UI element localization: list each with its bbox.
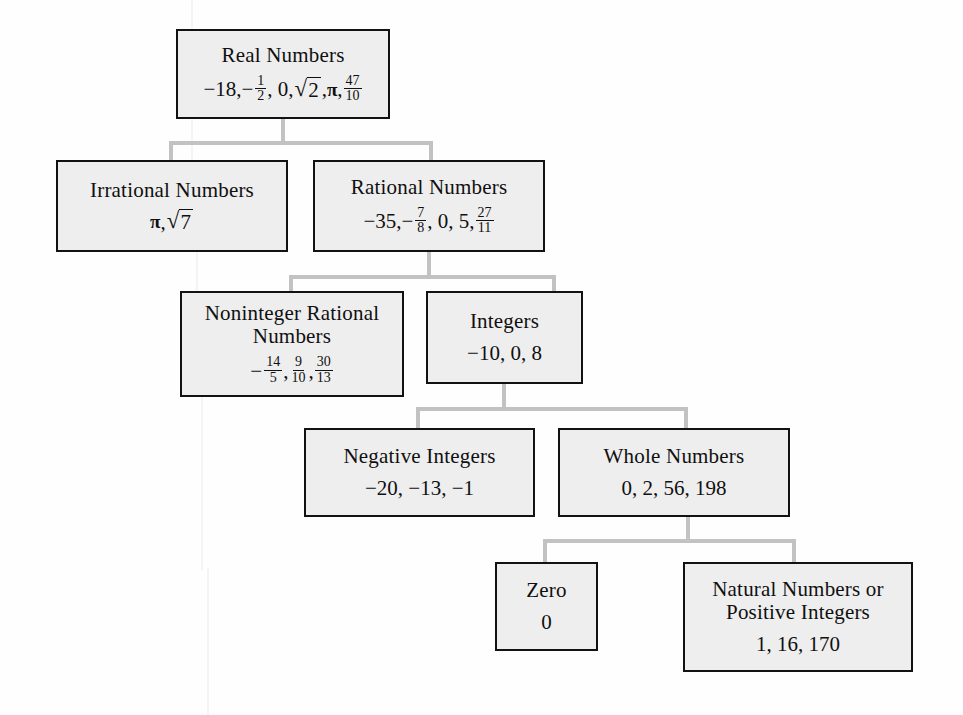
node-integers[interactable]: Integers −10, 0, 8 [426, 291, 583, 384]
node-title: Negative Integers [343, 444, 495, 469]
pi-symbol: π [150, 211, 160, 233]
connector-integers-drop [502, 383, 506, 411]
connector-natural-riser [792, 539, 796, 562]
fraction-numerator: 1 [255, 74, 266, 90]
radical-surd: √ [295, 77, 308, 100]
scan-artifact-streak [207, 568, 209, 715]
fraction-forty-seven-tenths: 47 10 [344, 74, 362, 104]
node-rational-numbers[interactable]: Rational Numbers −35, − 7 8 , 0, 5, 27 1… [313, 160, 545, 252]
real-example-b: , 0, [267, 77, 293, 102]
node-title: Irrational Numbers [90, 178, 254, 203]
node-examples: −18, − 1 2 , 0, √ 2 , π , 47 10 [203, 75, 362, 105]
fraction-numerator: 30 [315, 355, 333, 371]
node-zero[interactable]: Zero 0 [495, 562, 598, 651]
node-title-line2: Numbers [253, 324, 331, 348]
fraction-fourteen-fifths: 14 5 [264, 355, 282, 385]
rational-example-a: −35, [363, 209, 401, 234]
connector-real-bus [169, 141, 433, 145]
fraction-denominator: 11 [476, 221, 493, 236]
connector-whole-drop [686, 516, 690, 543]
node-negative-integers[interactable]: Negative Integers −20, −13, −1 [304, 428, 535, 517]
node-natural-numbers[interactable]: Natural Numbers or Positive Integers 1, … [683, 562, 913, 672]
fraction-numerator: 27 [476, 206, 494, 222]
real-example-d: , [337, 77, 342, 102]
node-title: Rational Numbers [351, 175, 508, 200]
connector-rational-bus [289, 275, 556, 279]
number-system-diagram: Real Numbers −18, − 1 2 , 0, √ 2 , π , 4… [0, 0, 963, 715]
fraction-numerator: 9 [293, 355, 304, 371]
fraction-denominator: 5 [268, 371, 279, 386]
node-title: Noninteger Rational Numbers [205, 302, 380, 349]
fraction-twenty-seven-elevenths: 27 11 [476, 206, 494, 236]
connector-whole-bus [543, 539, 796, 543]
fraction-one-half: 1 2 [255, 74, 266, 104]
node-title-line1: Noninteger Rational [205, 301, 380, 325]
node-examples: −35, − 7 8 , 0, 5, 27 11 [363, 207, 494, 237]
fraction-denominator: 2 [255, 89, 266, 104]
square-root-icon: √ 2 [295, 78, 321, 102]
fraction-numerator: 14 [264, 355, 282, 371]
node-title-line1: Natural Numbers or [712, 577, 884, 601]
rational-example-b: , 0, 5, [427, 209, 474, 234]
radical-surd: √ [167, 209, 180, 232]
fraction-denominator: 10 [344, 89, 362, 104]
node-noninteger-rational-numbers[interactable]: Noninteger Rational Numbers − 14 5 , 9 1… [180, 291, 404, 397]
fraction-denominator: 10 [289, 371, 307, 386]
fraction-numerator: 7 [415, 206, 426, 222]
pi-symbol: π [327, 79, 337, 101]
node-examples: 1, 16, 170 [756, 632, 840, 657]
node-title: Whole Numbers [604, 444, 745, 469]
node-whole-numbers[interactable]: Whole Numbers 0, 2, 56, 198 [558, 428, 790, 517]
connector-integers-bus [416, 407, 688, 411]
noninteger-separator-1: , [283, 359, 288, 384]
fraction-thirty-thirteenths: 30 13 [315, 355, 333, 385]
node-examples: 0 [541, 610, 552, 635]
fraction-nine-tenths: 9 10 [289, 355, 307, 385]
node-examples: π , √ 7 [150, 210, 194, 235]
real-neg-sign: − [241, 77, 253, 102]
noninteger-separator-2: , [308, 359, 313, 384]
node-real-numbers[interactable]: Real Numbers −18, − 1 2 , 0, √ 2 , π , 4… [176, 29, 390, 119]
connector-whole-riser [684, 407, 688, 428]
node-title-line2: Positive Integers [726, 600, 870, 624]
real-example-a: −18, [203, 77, 241, 102]
connector-negative-integers-riser [416, 407, 420, 428]
fraction-denominator: 13 [315, 371, 333, 386]
fraction-denominator: 8 [415, 221, 426, 236]
scan-artifact-streak [201, 370, 203, 570]
node-irrational-numbers[interactable]: Irrational Numbers π , √ 7 [56, 160, 288, 252]
node-examples: −20, −13, −1 [365, 476, 474, 501]
noninteger-neg-sign: − [250, 359, 262, 384]
rational-neg-sign: − [402, 209, 414, 234]
node-examples: 0, 2, 56, 198 [622, 476, 727, 501]
connector-rational-riser [429, 141, 433, 162]
node-examples: −10, 0, 8 [467, 341, 542, 366]
node-title: Zero [526, 578, 566, 603]
fraction-seven-eighths: 7 8 [415, 206, 426, 236]
connector-rational-drop [427, 251, 431, 279]
connector-irrational-riser [169, 141, 173, 162]
square-root-icon: √ 7 [167, 210, 193, 234]
node-title: Natural Numbers or Positive Integers [712, 578, 884, 625]
irrational-separator: , [161, 210, 166, 235]
radicand: 7 [179, 209, 193, 233]
node-title: Real Numbers [221, 43, 344, 68]
radicand: 2 [307, 77, 321, 101]
connector-zero-riser [543, 539, 547, 562]
node-title: Integers [470, 309, 539, 334]
fraction-numerator: 47 [344, 74, 362, 90]
connector-real-drop [281, 118, 285, 145]
node-examples: − 14 5 , 9 10 , 30 13 [250, 356, 333, 386]
